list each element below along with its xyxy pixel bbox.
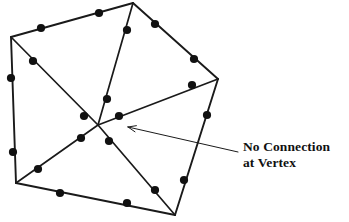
interior-edge-4: [16, 125, 98, 183]
mesh-node: [37, 24, 45, 32]
mesh-diagram: [0, 0, 349, 222]
mesh-node: [123, 26, 131, 34]
interior-edge-0: [11, 37, 98, 125]
mesh-node: [115, 112, 123, 120]
outline-edge-1: [133, 3, 218, 79]
polygon-outline: [11, 3, 218, 215]
mesh-node: [9, 148, 17, 156]
mesh-node: [95, 9, 103, 17]
outline-edge-2: [175, 79, 218, 215]
mesh-node: [34, 165, 42, 173]
outline-edge-4: [11, 37, 16, 183]
outline-edge-0: [11, 3, 133, 37]
mesh-node: [77, 134, 85, 142]
mesh-nodes: [7, 9, 211, 207]
mesh-node: [105, 137, 113, 145]
mesh-node: [103, 95, 111, 103]
figure-root: No Connection at Vertex: [0, 0, 349, 222]
interior-edge-1: [98, 3, 133, 125]
mesh-node: [188, 81, 196, 89]
mesh-node: [151, 20, 159, 28]
interior-edges: [11, 3, 218, 215]
mesh-node: [180, 176, 188, 184]
mesh-node: [80, 112, 88, 120]
leader-line: [128, 127, 238, 152]
mesh-node: [56, 189, 64, 197]
mesh-node: [29, 57, 37, 65]
annotation-line-1: No Connection: [243, 139, 330, 155]
mesh-node: [123, 199, 131, 207]
annotation-label: No Connection at Vertex: [243, 139, 330, 170]
mesh-node: [7, 74, 15, 82]
mesh-node: [151, 186, 159, 194]
annotation-leader-arrow: [128, 126, 238, 152]
mesh-node: [190, 55, 198, 63]
annotation-line-2: at Vertex: [243, 155, 330, 171]
arrowhead-barb-1: [128, 126, 136, 127]
mesh-node: [203, 111, 211, 119]
